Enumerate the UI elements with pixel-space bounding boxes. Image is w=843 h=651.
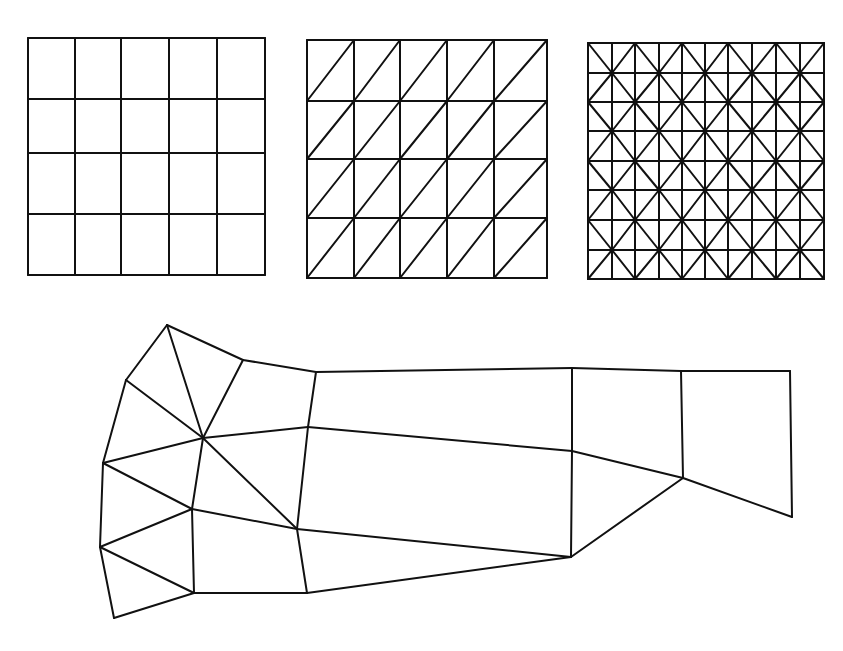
grid-diagonal <box>752 161 776 190</box>
grid-diagonal <box>752 220 776 250</box>
mesh-edge <box>114 593 194 618</box>
mesh-edge <box>192 509 194 593</box>
mesh-edge <box>297 529 307 593</box>
mesh-edge <box>203 427 308 438</box>
grid-diagonal <box>494 40 547 101</box>
mesh-edge <box>203 438 297 529</box>
grid-diagonal <box>612 190 635 220</box>
grid-diagonal <box>682 43 705 73</box>
grid-diagonal <box>588 190 612 220</box>
grid-diagonal <box>705 43 728 73</box>
grid-diagonal <box>800 73 824 102</box>
mesh-figure <box>0 0 843 651</box>
grid-diagonal <box>307 159 354 218</box>
grid-diagonal <box>447 40 494 101</box>
grid-diagonal <box>307 40 354 101</box>
grid-diagonal <box>635 161 659 190</box>
mesh-edge <box>192 438 203 509</box>
mesh-edge <box>100 463 103 547</box>
grid-diagonal <box>400 218 447 278</box>
grid-diagonal <box>659 73 682 102</box>
grid-diagonal <box>447 159 494 218</box>
grid-diagonal <box>494 101 547 159</box>
grid-diagonal <box>682 250 705 279</box>
mesh-edge <box>103 438 203 463</box>
grid-diagonal <box>635 73 659 102</box>
mesh-edge <box>572 368 681 371</box>
mesh-edge <box>683 478 792 517</box>
grid-diagonal <box>612 250 635 279</box>
grid-diagonal <box>800 131 824 161</box>
grid-diagonal <box>635 220 659 250</box>
grid-diagonal <box>752 250 776 279</box>
grid-diagonal <box>728 43 752 73</box>
mesh-edge <box>167 325 243 360</box>
grid-diagonal <box>705 73 728 102</box>
grid-diagonal <box>705 190 728 220</box>
grid-diagonal <box>659 190 682 220</box>
grid-diagonal <box>776 190 800 220</box>
grid-diagonal <box>612 131 635 161</box>
grid-diagonal <box>776 220 800 250</box>
grid-diagonal <box>728 131 752 161</box>
grid-diagonal <box>800 161 824 190</box>
grid-diagonal <box>752 102 776 131</box>
grid-diagonal <box>776 131 800 161</box>
mesh-edge <box>308 427 572 451</box>
grid-diagonal <box>682 102 705 131</box>
grid-diagonal <box>800 250 824 279</box>
mesh-edge <box>203 360 243 438</box>
grid-diagonal <box>354 101 400 159</box>
grid-diagonal <box>705 102 728 131</box>
grid-diagonal <box>682 190 705 220</box>
grid-diagonal <box>354 218 400 278</box>
mesh-edge <box>572 451 683 478</box>
grid-diagonal <box>800 102 824 131</box>
grid-diagonal <box>659 250 682 279</box>
grid-diagonal <box>776 43 800 73</box>
grid-diagonal <box>705 220 728 250</box>
grid-diagonal <box>659 131 682 161</box>
grid-diagonal <box>752 43 776 73</box>
grid-diagonal <box>752 131 776 161</box>
grid-diagonal <box>494 218 547 278</box>
grid-diagonal <box>588 131 612 161</box>
grid-diagonal <box>728 73 752 102</box>
mesh-edge <box>103 380 126 463</box>
grid-diagonal <box>400 40 447 101</box>
grid-diagonal <box>682 220 705 250</box>
mesh-edge <box>126 325 167 380</box>
grid-diagonal <box>728 250 752 279</box>
grid-diagonal <box>728 190 752 220</box>
quad-grid-mesh <box>28 38 265 275</box>
grid-diagonal <box>682 131 705 161</box>
grid-diagonal <box>612 102 635 131</box>
mesh-edge <box>571 478 683 557</box>
grid-diagonal <box>635 131 659 161</box>
grid-diagonal <box>728 220 752 250</box>
mesh-edge <box>192 509 297 529</box>
mesh-edge <box>167 325 203 438</box>
grid-diagonal <box>800 43 824 73</box>
grid-diagonal <box>776 250 800 279</box>
grid-diagonal <box>612 73 635 102</box>
mesh-edge <box>100 547 114 618</box>
grid-diagonal <box>588 43 612 73</box>
grid-diagonal <box>752 73 776 102</box>
mesh-edge <box>126 380 203 438</box>
grid-diagonal <box>307 101 354 159</box>
unstructured-mesh <box>100 325 792 618</box>
mesh-edge <box>297 529 571 557</box>
grid-diagonal <box>659 102 682 131</box>
grid-diagonal <box>354 40 400 101</box>
grid-diagonal <box>494 159 547 218</box>
mesh-edge <box>681 371 683 478</box>
grid-diagonal <box>400 101 447 159</box>
grid-diagonal <box>588 73 612 102</box>
grid-diagonal <box>612 43 635 73</box>
grid-diagonal <box>635 250 659 279</box>
grid-diagonal <box>800 190 824 220</box>
grid-diagonal <box>588 161 612 190</box>
mesh-edge <box>100 547 194 593</box>
grid-diagonal <box>682 73 705 102</box>
